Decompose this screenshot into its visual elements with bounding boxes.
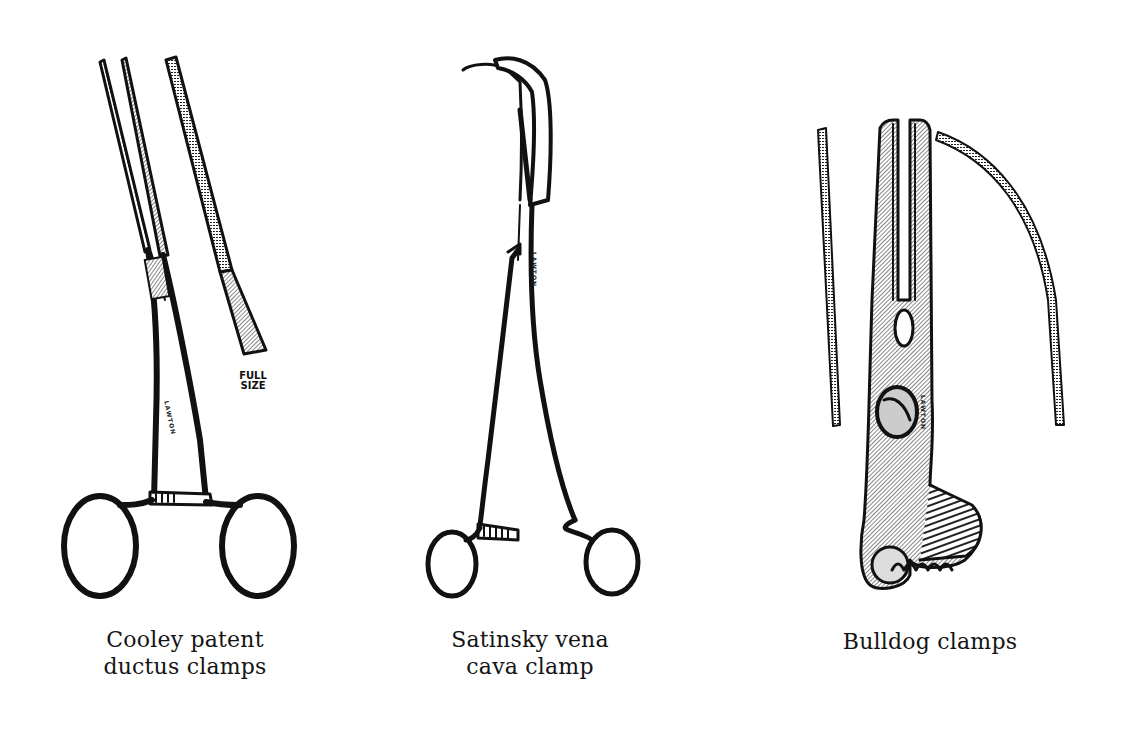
full-size-line2: SIZE — [236, 381, 270, 391]
caption-cooley-line2: ductus clamps — [70, 653, 300, 680]
bulldog-engraving: LAWTON — [920, 395, 927, 430]
caption-satinsky-line2: cava clamp — [420, 653, 640, 680]
full-size-annotation: FULL SIZE — [236, 371, 270, 391]
satinsky-clamp-drawing — [428, 58, 638, 596]
caption-bulldog-line1: Bulldog clamps — [810, 628, 1050, 655]
caption-cooley: Cooley patent ductus clamps — [70, 626, 300, 680]
caption-satinsky: Satinsky vena cava clamp — [420, 626, 640, 680]
cooley-clamp-drawing — [64, 56, 294, 596]
caption-cooley-line1: Cooley patent — [70, 626, 300, 653]
caption-bulldog: Bulldog clamps — [810, 628, 1050, 655]
bulldog-clamp-drawing — [818, 120, 1064, 588]
satinsky-engraving: LAWTON — [531, 252, 538, 287]
caption-satinsky-line1: Satinsky vena — [420, 626, 640, 653]
instrument-illustration-figure: FULL SIZE LAWTON LAWTON LAWTON Cooley pa… — [0, 0, 1122, 737]
